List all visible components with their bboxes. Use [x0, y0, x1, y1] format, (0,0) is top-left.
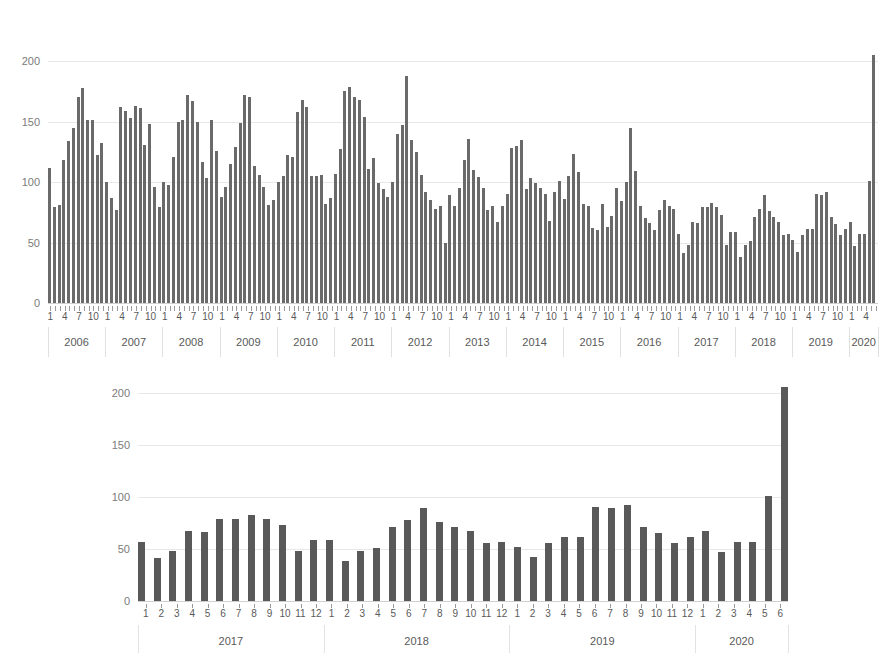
y-axis-tick-label: 200	[112, 387, 130, 399]
bar	[806, 229, 809, 303]
month-tick	[871, 306, 872, 311]
bar	[234, 147, 237, 303]
x-axis-line	[48, 303, 878, 304]
bar	[210, 120, 213, 303]
year-separator	[220, 327, 221, 357]
bar	[348, 87, 351, 303]
month-label: 3	[731, 608, 737, 619]
bar	[448, 195, 451, 303]
month-label: 1	[143, 608, 149, 619]
bar	[162, 182, 165, 303]
y-axis-tick-label: 50	[118, 543, 130, 555]
month-tick	[189, 306, 190, 311]
top-chart-year-axis: 2006200720082009201020112012201320142015…	[48, 327, 878, 357]
bar	[720, 215, 723, 303]
bar	[401, 125, 404, 303]
month-label: 5	[205, 608, 211, 619]
month-label: 10	[546, 311, 557, 322]
bar	[482, 188, 485, 303]
month-label: 1	[277, 311, 283, 322]
month-label: 7	[305, 311, 311, 322]
month-label: 1	[448, 311, 454, 322]
month-label: 8	[623, 608, 629, 619]
y-axis-tick-label: 150	[22, 116, 40, 128]
month-label: 7	[477, 311, 483, 322]
bar	[472, 170, 475, 303]
bar	[715, 207, 718, 303]
bar	[81, 88, 84, 303]
bar	[148, 124, 151, 303]
month-tick	[647, 306, 648, 311]
month-label: 1	[620, 311, 626, 322]
bar	[220, 197, 223, 303]
bar	[186, 95, 189, 303]
month-tick	[370, 306, 371, 311]
month-tick	[532, 306, 533, 311]
bar	[696, 223, 699, 303]
year-separator	[277, 327, 278, 357]
year-separator	[48, 327, 49, 357]
bar	[372, 158, 375, 303]
bar	[587, 206, 590, 303]
month-tick	[232, 306, 233, 311]
bar	[553, 192, 556, 303]
bar	[353, 97, 356, 303]
bar	[105, 182, 108, 303]
year-separator	[878, 327, 879, 357]
bar	[702, 531, 709, 601]
month-tick	[74, 306, 75, 311]
bar	[334, 174, 337, 303]
bar	[682, 253, 685, 303]
bar	[510, 148, 513, 303]
bar	[243, 95, 246, 303]
bar	[758, 209, 761, 303]
month-tick	[303, 306, 304, 311]
month-tick	[418, 306, 419, 311]
bar	[279, 525, 286, 601]
year-label: 2017	[694, 336, 718, 348]
month-tick	[69, 306, 70, 311]
month-label: 10	[374, 311, 385, 322]
month-label: 10	[775, 311, 786, 322]
bar	[525, 189, 528, 303]
month-tick	[246, 306, 247, 311]
month-label: 1	[329, 608, 335, 619]
bar	[520, 140, 523, 303]
year-label: 2020	[851, 336, 875, 348]
month-label: 10	[317, 311, 328, 322]
bar	[506, 194, 509, 303]
bar	[291, 157, 294, 303]
bar	[781, 387, 788, 601]
bar	[691, 222, 694, 303]
month-label: 7	[607, 608, 613, 619]
month-tick	[642, 306, 643, 311]
month-tick	[112, 306, 113, 311]
bar	[610, 216, 613, 303]
month-tick	[55, 306, 56, 311]
bar	[849, 222, 852, 303]
y-axis-tick-label: 100	[22, 176, 40, 188]
month-tick	[184, 306, 185, 311]
month-label: 6	[406, 608, 412, 619]
bar	[658, 210, 661, 303]
year-label: 2013	[465, 336, 489, 348]
month-tick	[160, 306, 161, 311]
month-label: 11	[667, 608, 677, 619]
month-tick	[332, 306, 333, 311]
bar	[185, 531, 192, 601]
month-label: 7	[362, 311, 368, 322]
month-label: 10	[431, 311, 442, 322]
month-label: 7	[76, 311, 82, 322]
month-label: 4	[561, 608, 567, 619]
bar	[753, 217, 756, 303]
month-tick	[475, 306, 476, 311]
month-label: 7	[133, 311, 139, 322]
month-label: 10	[717, 311, 728, 322]
bar	[77, 97, 80, 303]
month-tick	[699, 306, 700, 311]
bar	[191, 101, 194, 303]
bar	[515, 146, 518, 303]
month-tick	[742, 306, 743, 311]
bar	[272, 200, 275, 303]
bar	[458, 188, 461, 303]
